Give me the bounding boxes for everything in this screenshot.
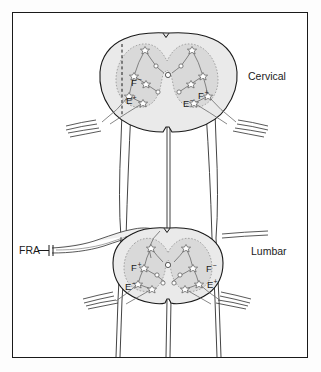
cervical-right-flexor-label: F <box>198 90 204 101</box>
lumbar-left-extensor-label: E <box>125 281 131 292</box>
figure-root: F − E + F + E − o <box>0 0 321 372</box>
cervical-cord-section: F − E + F + E − o <box>66 33 268 137</box>
fra-label: FRA <box>19 244 40 256</box>
lumbar-section-label: Lumbar <box>251 245 287 257</box>
interneuron-circle <box>155 273 159 277</box>
interneuron-circle <box>156 90 160 94</box>
cervical-section-label: Cervical <box>248 70 286 82</box>
interneuron-circle <box>154 64 158 68</box>
cervical-central-canal <box>165 72 170 77</box>
cervical-right-flexor-sign: + <box>205 89 209 96</box>
lumbar-central-canal <box>165 262 170 267</box>
interneuron-circle <box>161 281 165 285</box>
interneuron-circle <box>177 90 181 94</box>
lumbar-right-extensor-sign: + <box>214 278 218 285</box>
interneuron-circle <box>172 281 176 285</box>
lumbar-right-flexor-label: F <box>206 263 212 274</box>
lumbar-right-flexor-sign: − <box>213 262 217 269</box>
cervical-right-extensor-sign: − <box>190 97 194 104</box>
cervical-left-extensor-label: E <box>126 95 132 106</box>
lumbar-left-flexor-label: F <box>131 262 137 273</box>
interneuron-circle <box>178 273 182 277</box>
cervical-left-extensor-sign: + <box>133 94 137 101</box>
cervical-left-flexor-sign: − <box>138 76 142 83</box>
lumbar-left-extensor-sign: − <box>132 280 136 287</box>
cervical-right-extensor-label: E <box>183 98 189 109</box>
lumbar-left-flexor-sign: + <box>138 261 142 268</box>
spinal-cord-diagram: F − E + F + E − o <box>0 0 321 372</box>
cervical-left-flexor-label: F <box>131 77 137 88</box>
lumbar-right-extensor-label: E <box>207 279 213 290</box>
interneuron-circle <box>179 64 183 68</box>
lumbar-cord-section: F + E − F − E + <box>38 228 268 309</box>
